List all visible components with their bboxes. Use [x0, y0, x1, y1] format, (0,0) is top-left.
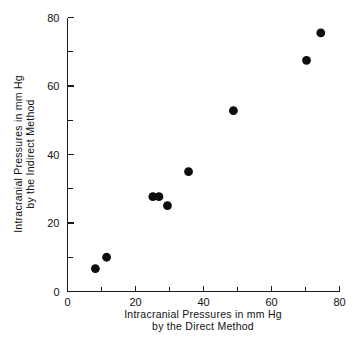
- y-tick-label-60: 60: [47, 80, 59, 92]
- x-tick-label-40: 40: [197, 296, 209, 308]
- y-tick-label-80: 80: [47, 12, 59, 24]
- y-tick-label-40: 40: [47, 149, 59, 161]
- y-tick-label-0: 0: [53, 286, 59, 298]
- data-point: [163, 201, 172, 210]
- x-axis-tick-labels: 020406080: [64, 296, 345, 308]
- x-tick-label-60: 60: [265, 296, 277, 308]
- data-point: [91, 264, 100, 273]
- data-point-series: [91, 29, 325, 273]
- data-point: [316, 29, 325, 38]
- y-axis-title-line-1: Intracranial Pressures in mm Hg: [12, 75, 24, 233]
- x-axis-tick-marks: [68, 286, 340, 292]
- data-point: [155, 192, 164, 201]
- axis-spine-path: [68, 18, 340, 292]
- x-tick-label-80: 80: [333, 296, 345, 308]
- data-point: [302, 56, 311, 65]
- x-axis-title-line-1: Intracranial Pressures in mm Hg: [124, 308, 282, 320]
- x-tick-label-0: 0: [64, 296, 70, 308]
- data-point: [102, 253, 111, 262]
- y-axis-tick-labels: 020406080: [47, 12, 59, 298]
- plot-canvas: 020406080 020406080 Intracranial Pressur…: [0, 0, 354, 348]
- y-tick-label-20: 20: [47, 217, 59, 229]
- y-axis-title: Intracranial Pressures in mm Hg by the I…: [12, 75, 36, 233]
- y-axis-tick-marks: [68, 18, 74, 292]
- x-axis-title: Intracranial Pressures in mm Hg by the D…: [124, 308, 282, 332]
- x-tick-label-20: 20: [129, 296, 141, 308]
- data-point: [184, 167, 193, 176]
- x-axis-title-line-2: by the Direct Method: [152, 320, 254, 332]
- axes-spines: [68, 18, 340, 292]
- y-axis-title-line-2: by the Indirect Method: [24, 99, 36, 208]
- data-point: [229, 106, 238, 115]
- scatter-plot-figure: 020406080 020406080 Intracranial Pressur…: [0, 0, 354, 348]
